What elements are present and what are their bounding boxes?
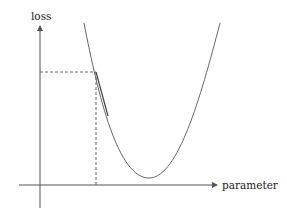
loss-curve bbox=[84, 23, 220, 178]
tangent-line bbox=[96, 72, 108, 116]
loss-curve-diagram: loss parameter bbox=[0, 0, 287, 219]
x-axis-label: parameter bbox=[222, 179, 279, 191]
y-axis-label: loss bbox=[31, 10, 51, 22]
